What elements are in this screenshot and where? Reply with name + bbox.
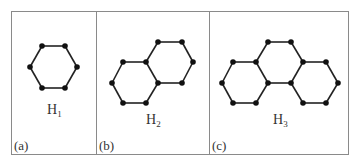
graph-vertex [155,39,161,45]
graph-edge [291,62,303,83]
graph-label-h3: H3 [273,113,288,129]
graph-label-h2: H2 [146,113,161,129]
graph-edge [30,67,42,88]
graph-c [219,39,341,106]
graph-edge [182,42,193,62]
graph-edge [326,83,338,103]
graph-vertex [179,80,185,86]
graph-vertex [265,39,271,45]
graph-edge [182,62,193,83]
graph-vertex [39,85,45,91]
graph-vertex [300,100,306,106]
panel-tag-a: (a) [14,139,28,152]
graph-edge [326,62,338,83]
graph-vertex [143,59,149,65]
graph-vertex [190,59,196,65]
graph-vertex [155,80,161,86]
graph-vertex [62,43,68,49]
graph-vertex [27,64,33,70]
graph-vertex [120,100,126,106]
graph-edge [65,46,77,67]
graph-edge [291,83,303,103]
graph-vertex [288,39,294,45]
graph-vertex [230,59,236,65]
graph-label-h1: H1 [47,103,62,119]
graph-vertex [39,43,45,49]
graph-edge [291,42,303,62]
panel-tag-c: (c) [212,139,226,152]
hexagonal-graphs [27,39,341,106]
graph-a [27,43,80,91]
graph-edge [256,83,268,103]
graph-vertex [219,80,225,86]
graph-edge [112,83,123,103]
graph-vertex [253,59,259,65]
graph-vertex [335,80,341,86]
graph-vertex [143,100,149,106]
graph-edge [256,42,268,62]
graph-edge [222,62,233,83]
graph-vertex [109,80,115,86]
panel-tag-b: (b) [99,139,114,152]
figure-canvas [0,0,361,165]
graph-edge [30,46,42,67]
graph-vertex [265,80,271,86]
graph-edge [112,62,123,83]
graph-vertex [323,59,329,65]
graph-vertex [62,85,68,91]
graph-edge [146,83,158,103]
graph-edge [256,62,268,83]
graph-vertex [323,100,329,106]
graph-vertex [179,39,185,45]
graph-b [109,39,196,106]
graph-vertex [120,59,126,65]
graph-edge [146,42,158,62]
graph-vertex [253,100,259,106]
graph-vertex [230,100,236,106]
graph-edge [146,62,158,83]
graph-vertex [74,64,80,70]
graph-vertex [288,80,294,86]
graph-vertex [300,59,306,65]
graph-edge [65,67,77,88]
graph-edge [222,83,233,103]
